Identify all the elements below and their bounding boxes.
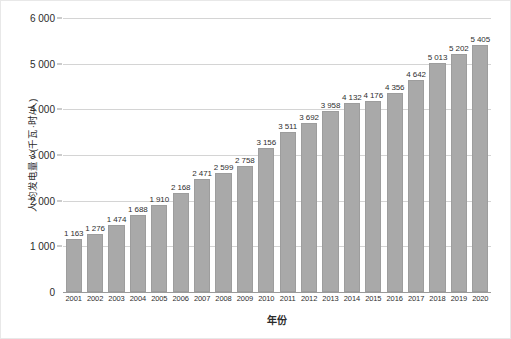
bar[interactable] bbox=[472, 45, 488, 292]
bar-slot: 4 356 bbox=[384, 18, 405, 292]
bar-slot: 1 910 bbox=[149, 18, 170, 292]
bar-value-label: 2 471 bbox=[192, 169, 212, 178]
bar-slot: 2 471 bbox=[191, 18, 212, 292]
bar[interactable] bbox=[387, 93, 403, 292]
bar-slot: 5 013 bbox=[427, 18, 448, 292]
x-tick-label-2018: 2018 bbox=[429, 294, 445, 303]
x-tick-label-2011: 2011 bbox=[280, 294, 296, 303]
y-tick-label-1000: 1 000 bbox=[1, 241, 55, 252]
x-tick-label-2012: 2012 bbox=[301, 294, 317, 303]
bar[interactable] bbox=[408, 80, 424, 292]
x-tick-label-2013: 2013 bbox=[322, 294, 338, 303]
bar-value-label: 3 958 bbox=[321, 101, 341, 110]
bar-slot: 2 168 bbox=[170, 18, 191, 292]
bar-slot: 4 176 bbox=[363, 18, 384, 292]
bar[interactable] bbox=[237, 166, 253, 292]
bar-slot: 5 202 bbox=[448, 18, 469, 292]
x-tick-label-2015: 2015 bbox=[365, 294, 381, 303]
y-tick-mark-5000 bbox=[57, 63, 62, 64]
y-tick-label-0: 0 bbox=[1, 287, 55, 298]
bar-value-label: 3 511 bbox=[278, 122, 297, 131]
y-tick-mark-6000 bbox=[57, 18, 62, 19]
x-tick-label-2007: 2007 bbox=[194, 294, 210, 303]
bar[interactable] bbox=[130, 215, 146, 292]
bar[interactable] bbox=[344, 103, 360, 292]
bar-value-label: 2 758 bbox=[235, 156, 255, 165]
x-tick-label-2006: 2006 bbox=[173, 294, 189, 303]
bar[interactable] bbox=[429, 63, 445, 292]
x-tick-label-2019: 2019 bbox=[451, 294, 467, 303]
y-tick-label-6000: 6 000 bbox=[1, 13, 55, 24]
bar-value-label: 1 910 bbox=[150, 195, 170, 204]
bar-value-label: 2 599 bbox=[214, 163, 234, 172]
y-tick-mark-1000 bbox=[57, 246, 62, 247]
bar[interactable] bbox=[66, 239, 82, 292]
y-tick-label-2000: 2 000 bbox=[1, 195, 55, 206]
bar[interactable] bbox=[365, 101, 381, 292]
x-tick-label-2003: 2003 bbox=[108, 294, 124, 303]
bar[interactable] bbox=[215, 173, 231, 292]
bar-slot: 2 758 bbox=[234, 18, 255, 292]
gridline-0 bbox=[63, 292, 491, 293]
x-tick-label-2014: 2014 bbox=[344, 294, 360, 303]
x-tick-label-2020: 2020 bbox=[472, 294, 488, 303]
x-tick-label-2008: 2008 bbox=[215, 294, 231, 303]
bar-value-label: 5 202 bbox=[449, 44, 469, 53]
bar-slot: 4 642 bbox=[405, 18, 426, 292]
bar-slot: 4 132 bbox=[341, 18, 362, 292]
bar-slot: 1 163 bbox=[63, 18, 84, 292]
x-tick-label-2002: 2002 bbox=[87, 294, 103, 303]
bar-slot: 5 405 bbox=[470, 18, 491, 292]
bar[interactable] bbox=[451, 54, 467, 292]
bar-value-label: 3 692 bbox=[299, 113, 319, 122]
bar[interactable] bbox=[280, 132, 296, 292]
bar-value-label: 2 168 bbox=[171, 183, 191, 192]
bar[interactable] bbox=[322, 111, 338, 292]
bar-value-label: 4 642 bbox=[406, 70, 426, 79]
y-tick-label-4000: 4 000 bbox=[1, 104, 55, 115]
bar[interactable] bbox=[108, 225, 124, 292]
x-axis-title: 年份 bbox=[63, 312, 491, 327]
x-tick-label-2010: 2010 bbox=[258, 294, 274, 303]
bar-value-label: 5 405 bbox=[471, 35, 491, 44]
chart-figure: 人均发电量 / (千瓦·时/人) 01 0002 0003 0004 0005 … bbox=[0, 0, 511, 339]
bar-slot: 1 276 bbox=[84, 18, 105, 292]
y-tick-mark-3000 bbox=[57, 155, 62, 156]
x-tick-label-2004: 2004 bbox=[130, 294, 146, 303]
bar-slot: 1 474 bbox=[106, 18, 127, 292]
y-tick-mark-4000 bbox=[57, 109, 62, 110]
plot-area: 1 1631 2761 4741 6881 9102 1682 4712 599… bbox=[63, 18, 491, 292]
bar-slot: 3 511 bbox=[277, 18, 298, 292]
x-axis-ticks: 2001200220032004200520062007200820092010… bbox=[63, 294, 491, 308]
bar[interactable] bbox=[258, 148, 274, 292]
x-tick-label-2001: 2001 bbox=[66, 294, 82, 303]
bar-value-label: 4 132 bbox=[342, 93, 362, 102]
y-tick-mark-2000 bbox=[57, 200, 62, 201]
bar[interactable] bbox=[173, 193, 189, 292]
bar[interactable] bbox=[301, 123, 317, 292]
bar-value-label: 1 688 bbox=[128, 205, 148, 214]
bar[interactable] bbox=[151, 205, 167, 292]
bar-value-label: 4 356 bbox=[385, 83, 405, 92]
bar-slot: 1 688 bbox=[127, 18, 148, 292]
bar-value-label: 1 163 bbox=[64, 229, 84, 238]
bar-slot: 3 692 bbox=[298, 18, 319, 292]
bar-slot: 2 599 bbox=[213, 18, 234, 292]
x-tick-label-2009: 2009 bbox=[237, 294, 253, 303]
y-tick-label-3000: 3 000 bbox=[1, 150, 55, 161]
y-tick-label-5000: 5 000 bbox=[1, 58, 55, 69]
x-tick-label-2016: 2016 bbox=[387, 294, 403, 303]
bar-slot: 3 958 bbox=[320, 18, 341, 292]
bar-value-label: 1 474 bbox=[107, 215, 127, 224]
x-tick-label-2017: 2017 bbox=[408, 294, 424, 303]
bar-value-label: 4 176 bbox=[364, 91, 384, 100]
bar[interactable] bbox=[194, 179, 210, 292]
bar-slot: 3 156 bbox=[256, 18, 277, 292]
x-tick-label-2005: 2005 bbox=[151, 294, 167, 303]
bar-value-label: 5 013 bbox=[428, 53, 448, 62]
bar-value-label: 1 276 bbox=[85, 224, 105, 233]
bar[interactable] bbox=[87, 234, 103, 292]
bar-value-label: 3 156 bbox=[257, 138, 277, 147]
